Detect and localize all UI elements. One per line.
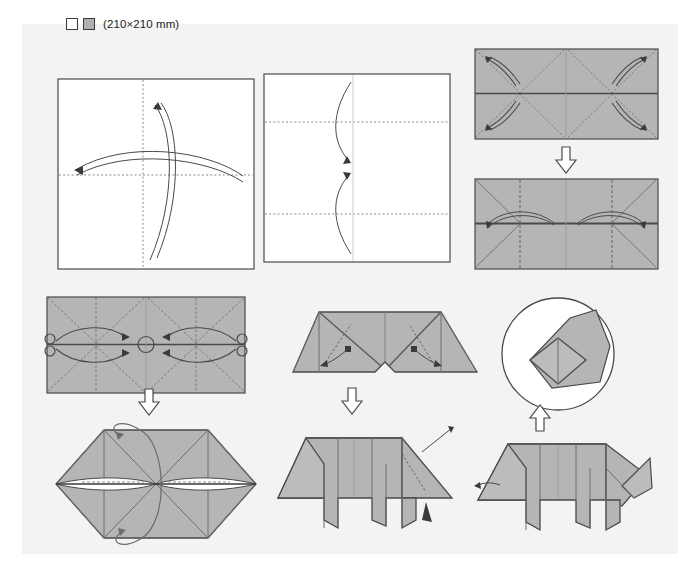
step-1-square-diagonal-creases <box>57 78 255 270</box>
step-6-hexagon-turn-over <box>48 424 264 544</box>
step-9-head-detail-circle <box>500 296 616 412</box>
step-7-w-shape-legs <box>289 306 481 386</box>
paper-size-label: (210×210 mm) <box>103 18 179 30</box>
step-2-quarter-creases <box>263 73 451 263</box>
diagram-page: (210×210 mm) <box>0 0 700 575</box>
step-3-rectangle-corner-folds <box>474 48 659 140</box>
step-8-body-with-tail <box>276 424 484 546</box>
arrow-separator-middle-column <box>340 387 364 419</box>
white-side-swatch <box>66 18 78 30</box>
step-10-finished-pig <box>472 428 680 548</box>
paper-size-legend: (210×210 mm) <box>66 18 179 30</box>
step-5-collapse-to-center <box>46 296 246 394</box>
colored-side-swatch <box>83 18 95 30</box>
arrow-separator-right-column <box>554 146 578 178</box>
arrow-separator-left-column <box>137 388 161 420</box>
step-4-rectangle-center-folds <box>474 178 659 270</box>
